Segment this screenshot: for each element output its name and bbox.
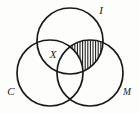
label-circle-c: C xyxy=(7,85,15,97)
venn-diagram-figure: I C M X xyxy=(0,0,139,113)
label-region-x: X xyxy=(49,48,58,60)
label-circle-m: M xyxy=(122,87,132,97)
venn-diagram-canvas: I C M X xyxy=(0,0,139,113)
label-circle-i: I xyxy=(98,4,104,16)
